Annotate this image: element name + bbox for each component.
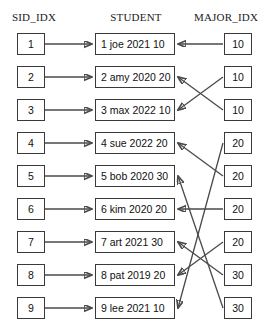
student-record[interactable]: 7 art 2021 30	[95, 231, 175, 253]
student-record[interactable]: 9 lee 2021 10	[95, 297, 175, 319]
sid-idx-entry[interactable]: 1	[17, 33, 45, 55]
major-idx-entry[interactable]: 20	[224, 132, 252, 154]
student-record[interactable]: 6 kim 2020 20	[95, 198, 175, 220]
major-idx-entry[interactable]: 30	[224, 297, 252, 319]
major-idx-entry[interactable]: 20	[224, 198, 252, 220]
sid-idx-entry[interactable]: 2	[17, 66, 45, 88]
student-record[interactable]: 5 bob 2020 30	[95, 165, 175, 187]
major-to-student-links	[178, 44, 223, 308]
column-header-sid-idx: SID_IDX	[6, 11, 62, 23]
index-diagram: SID_IDX STUDENT MAJOR_IDX	[0, 0, 265, 334]
sid-idx-entry[interactable]: 7	[17, 231, 45, 253]
column-header-major-idx: MAJOR_IDX	[193, 11, 259, 23]
student-record[interactable]: 2 amy 2020 20	[95, 66, 175, 88]
student-record[interactable]: 8 pat 2019 20	[95, 264, 175, 286]
sid-to-student-links	[45, 44, 92, 308]
sid-idx-entry[interactable]: 8	[17, 264, 45, 286]
column-header-student: STUDENT	[103, 11, 169, 23]
major-idx-entry[interactable]: 10	[224, 33, 252, 55]
sid-idx-entry[interactable]: 3	[17, 99, 45, 121]
student-record[interactable]: 3 max 2022 10	[95, 99, 175, 121]
sid-idx-entry[interactable]: 4	[17, 132, 45, 154]
student-record[interactable]: 4 sue 2022 20	[95, 132, 175, 154]
major-idx-entry[interactable]: 20	[224, 231, 252, 253]
major-idx-entry[interactable]: 10	[224, 99, 252, 121]
sid-idx-entry[interactable]: 6	[17, 198, 45, 220]
sid-idx-entry[interactable]: 9	[17, 297, 45, 319]
major-idx-entry[interactable]: 20	[224, 165, 252, 187]
sid-idx-entry[interactable]: 5	[17, 165, 45, 187]
student-record[interactable]: 1 joe 2021 10	[95, 33, 175, 55]
major-idx-entry[interactable]: 30	[224, 264, 252, 286]
major-idx-entry[interactable]: 10	[224, 66, 252, 88]
